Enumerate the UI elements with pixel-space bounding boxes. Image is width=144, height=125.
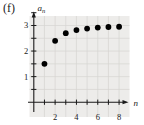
data-point	[63, 30, 69, 36]
y-tick-label: 1	[24, 72, 28, 82]
x-tick-label: 8	[117, 112, 121, 122]
data-point	[106, 24, 112, 30]
x-axis-label: n	[134, 98, 139, 108]
data-point	[84, 26, 90, 32]
y-tick-label: 2	[24, 46, 28, 56]
data-point	[74, 27, 80, 33]
y-axis-label-subscript: n	[42, 7, 45, 14]
data-point	[116, 24, 122, 30]
sequence-graph-figure: (f) 2468123ann	[0, 0, 144, 125]
x-tick-label: 4	[74, 112, 79, 122]
data-point	[95, 25, 101, 31]
y-axis-label: an	[38, 3, 46, 14]
data-point	[42, 61, 48, 67]
x-tick-label: 6	[96, 112, 100, 122]
sequence-scatter-plot: 2468123ann	[0, 0, 144, 125]
y-tick-label: 3	[24, 20, 28, 30]
data-point	[52, 38, 58, 44]
x-tick-label: 2	[53, 112, 57, 122]
